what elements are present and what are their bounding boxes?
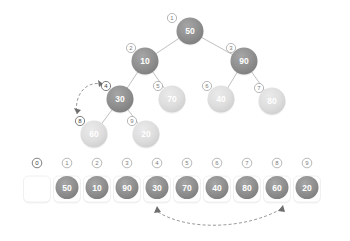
tree-edge	[101, 109, 112, 124]
cell-value-label: 90	[122, 183, 132, 193]
cell-value-label: 30	[152, 183, 162, 193]
cell-value-label: 60	[272, 183, 282, 193]
node-value-label: 40	[216, 94, 226, 104]
cell-value-label: 80	[242, 183, 252, 193]
tree-node-90[interactable]: 903	[226, 43, 257, 75]
array-swap-arc-path	[158, 209, 281, 225]
cell-box	[24, 176, 51, 202]
swap-arrowhead-lower	[74, 108, 81, 114]
array-swap-arrow	[154, 205, 285, 225]
node-value-label: 30	[115, 94, 125, 104]
node-value-label: 80	[267, 96, 277, 106]
array-cell-7[interactable]: 807	[234, 158, 261, 203]
cell-value-label: 20	[302, 183, 312, 193]
array-cells: 0501102903304705406807608209	[24, 158, 321, 203]
swap-arc-path	[76, 83, 103, 114]
array-cell-2[interactable]: 102	[84, 158, 111, 203]
array-cell-5[interactable]: 705	[174, 158, 201, 203]
node-value-label: 20	[141, 129, 151, 139]
array-cell-8[interactable]: 608	[264, 158, 291, 203]
node-value-label: 50	[185, 26, 195, 36]
tree-nodes: 501102903304705406807608209	[75, 13, 285, 148]
tree-node-10[interactable]: 102	[126, 43, 158, 75]
tree-node-60[interactable]: 608	[75, 116, 107, 148]
tree-node-50[interactable]: 501	[167, 13, 203, 45]
array-cell-9[interactable]: 209	[294, 158, 321, 203]
cell-value-label: 40	[212, 183, 222, 193]
cell-value-label: 70	[182, 183, 192, 193]
tree-swap-arrow	[74, 80, 103, 114]
tree-edge	[127, 71, 138, 88]
tree-edge	[227, 72, 237, 89]
cell-value-label: 50	[62, 183, 72, 193]
array-swap-arrowhead-right	[278, 205, 285, 212]
array-cell-1[interactable]: 501	[54, 158, 81, 203]
array-swap-arrowhead-left	[154, 206, 161, 213]
array-cell-4[interactable]: 304	[144, 158, 171, 203]
tree-node-70[interactable]: 705	[153, 81, 185, 113]
tree-node-20[interactable]: 209	[127, 116, 159, 148]
array-cell-0[interactable]: 0	[24, 158, 51, 203]
node-value-label: 70	[167, 94, 177, 104]
array-cell-6[interactable]: 406	[204, 158, 231, 203]
node-value-label: 60	[89, 129, 99, 139]
array-cell-3[interactable]: 903	[114, 158, 141, 203]
node-value-label: 90	[239, 56, 249, 66]
cell-value-label: 10	[92, 183, 102, 193]
node-value-label: 10	[140, 56, 150, 66]
tree-node-40[interactable]: 406	[202, 81, 234, 113]
tree-and-array-diagram: 501102903304705406807608209 050110290330…	[0, 0, 350, 241]
tree-edge	[155, 38, 179, 54]
visualization-canvas: 501102903304705406807608209 050110290330…	[0, 0, 350, 241]
tree-node-80[interactable]: 807	[254, 83, 285, 115]
